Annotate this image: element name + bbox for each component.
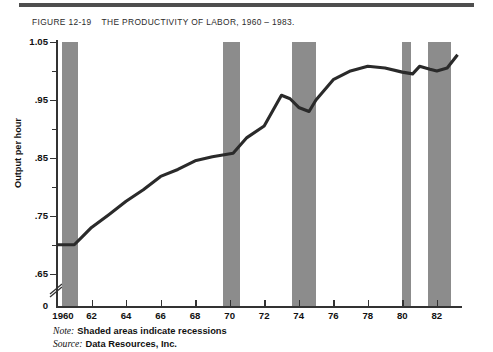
x-axis-tick [264,300,265,307]
figure-container: FIGURE 12-19THE PRODUCTIVITY OF LABOR, 1… [0,0,493,352]
x-axis-tick [437,300,438,307]
x-axis-tick [195,300,196,307]
figure-footnotes: Note:Shaded areas indicate recessions So… [53,325,227,350]
productivity-line [57,55,458,245]
y-axis-labels: 1.05.95.85.75.650 [0,0,48,352]
x-axis-tick [299,300,300,307]
x-axis-tick [57,300,58,307]
y-axis-zero-label: 0 [43,300,48,311]
note-text: Shaded areas indicate recessions [77,326,226,336]
y-axis-tick-label: .95 [35,94,48,105]
x-axis-tick-label: 72 [259,310,270,321]
source-text: Data Resources, Inc. [85,339,176,349]
source-label: Source: [53,338,82,349]
note-label: Note: [53,325,74,336]
x-axis-tick-label: 78 [362,310,373,321]
x-axis-tick-label: 76 [328,310,339,321]
x-axis-tick [230,300,231,307]
y-axis-tick-label: .65 [35,268,48,279]
note-line: Note:Shaded areas indicate recessions [53,325,227,338]
x-axis-line [56,306,462,308]
y-axis-tick-label: .85 [35,152,48,163]
y-axis-tick-label: .75 [35,210,48,221]
y-axis-tick-label: 1.05 [29,36,48,47]
x-axis-tick-label: 62 [86,310,97,321]
x-axis-tick-label: 64 [121,310,132,321]
x-axis-tick [368,300,369,307]
plot-area [57,42,461,306]
x-axis-tick-label: 80 [397,310,408,321]
x-axis-tick [402,300,403,307]
x-axis-tick-label: 82 [431,310,442,321]
figure-title: THE PRODUCTIVITY OF LABOR, 1960 – 1983. [102,17,295,27]
series-line-chart [57,42,461,306]
x-axis-tick-label: 74 [293,310,304,321]
header-rule [19,3,474,7]
x-axis-tick [126,300,127,307]
x-axis-tick [333,300,334,307]
x-axis-tick-label: 70 [224,310,235,321]
source-line: Source:Data Resources, Inc. [53,338,227,351]
x-axis-tick-label: 66 [155,310,166,321]
x-axis-tick [161,300,162,307]
x-axis-tick [92,300,93,307]
x-axis-tick-label: 1960 [52,310,73,321]
x-axis-tick-label: 68 [190,310,201,321]
figure-caption: FIGURE 12-19THE PRODUCTIVITY OF LABOR, 1… [32,17,295,27]
